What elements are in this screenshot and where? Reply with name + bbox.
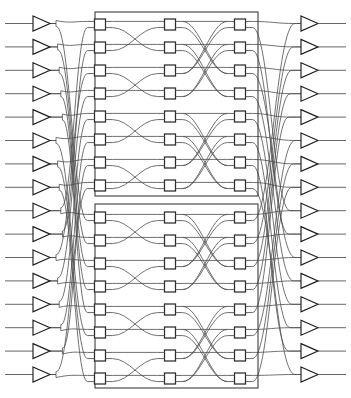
output-buffer-13[interactable]	[301, 320, 318, 335]
output-buffer-0[interactable]	[301, 16, 318, 31]
output-wire-5-0	[253, 136, 302, 140]
input-buffer-0[interactable]	[33, 16, 50, 31]
output-buffer-4[interactable]	[301, 110, 318, 125]
switch-element-p0-r3-s2[interactable]	[235, 88, 246, 99]
input-buffer-7[interactable]	[33, 180, 50, 195]
input-buffer-layer	[5, 16, 50, 382]
switch-element-p0-r5-s0[interactable]	[95, 134, 106, 145]
switch-element-p1-r3-s1[interactable]	[165, 281, 176, 292]
switch-element-p1-r1-s1[interactable]	[165, 235, 176, 246]
switch-element-p1-r7-s0[interactable]	[95, 373, 106, 384]
switch-element-p0-r3-s0[interactable]	[95, 88, 106, 99]
output-buffer-3[interactable]	[301, 86, 318, 101]
network-diagram	[0, 0, 351, 398]
input-buffer-9[interactable]	[33, 227, 50, 242]
switch-element-p1-r1-s0[interactable]	[95, 235, 106, 246]
switch-box-layer	[88, 19, 253, 384]
switch-element-p0-r4-s0[interactable]	[95, 111, 106, 122]
output-buffer-15[interactable]	[301, 367, 318, 382]
switch-element-p1-r5-s0[interactable]	[95, 327, 106, 338]
input-buffer-6[interactable]	[33, 156, 50, 171]
output-buffer-9[interactable]	[301, 227, 318, 242]
input-buffer-3[interactable]	[33, 86, 50, 101]
switch-element-p0-r1-s0[interactable]	[95, 42, 106, 53]
input-buffer-8[interactable]	[33, 203, 50, 218]
input-buffer-14[interactable]	[33, 344, 50, 359]
interstage-wire-p1-s0-r1-t1	[113, 221, 158, 244]
switch-element-p1-r5-s2[interactable]	[235, 327, 246, 338]
output-wire-0-0	[253, 21, 302, 23]
interstage-wire-p0-s1-r2-t1	[183, 28, 228, 74]
switch-element-p0-r3-s1[interactable]	[165, 88, 176, 99]
interstage-wire-p1-s0-r5-t1	[113, 313, 158, 336]
switch-element-p0-r6-s0[interactable]	[95, 157, 106, 168]
output-wire-10-0	[253, 258, 302, 261]
switch-element-p0-r0-s1[interactable]	[165, 19, 176, 30]
output-buffer-10[interactable]	[301, 250, 318, 265]
switch-element-p0-r5-s2[interactable]	[235, 134, 246, 145]
output-wire-layer	[253, 21, 302, 381]
input-wire-11-0	[50, 281, 88, 284]
output-buffer-14[interactable]	[301, 344, 318, 359]
output-wire-8-1	[253, 28, 302, 211]
switch-element-p1-r2-s1[interactable]	[165, 258, 176, 269]
switch-element-p0-r0-s0[interactable]	[95, 19, 106, 30]
switch-element-p0-r1-s1[interactable]	[165, 42, 176, 53]
switch-element-p1-r3-s0[interactable]	[95, 281, 106, 292]
input-buffer-4[interactable]	[33, 110, 50, 125]
switch-element-p1-r5-s1[interactable]	[165, 327, 176, 338]
output-buffer-layer	[301, 16, 346, 382]
output-buffer-1[interactable]	[301, 39, 318, 54]
output-buffer-5[interactable]	[301, 133, 318, 148]
switch-element-p0-r6-s1[interactable]	[165, 157, 176, 168]
output-buffer-2[interactable]	[301, 63, 318, 78]
switch-element-p0-r2-s1[interactable]	[165, 65, 176, 76]
interstage-wire-p0-s0-r7-t1	[113, 166, 158, 189]
input-buffer-15[interactable]	[33, 367, 50, 382]
plane-frame-bottom-plane	[95, 204, 258, 388]
switch-element-p0-r2-s0[interactable]	[95, 65, 106, 76]
switch-element-p1-r1-s2[interactable]	[235, 235, 246, 246]
switch-element-p0-r2-s2[interactable]	[235, 65, 246, 76]
input-buffer-12[interactable]	[33, 297, 50, 312]
input-buffer-10[interactable]	[33, 250, 50, 265]
input-buffer-2[interactable]	[33, 63, 50, 78]
switch-element-p1-r0-s0[interactable]	[95, 212, 106, 223]
switch-element-p0-r6-s2[interactable]	[235, 157, 246, 168]
output-buffer-11[interactable]	[301, 273, 318, 288]
input-buffer-13[interactable]	[33, 320, 50, 335]
switch-element-p1-r6-s2[interactable]	[235, 350, 246, 361]
output-buffer-7[interactable]	[301, 180, 318, 195]
switch-element-p0-r7-s2[interactable]	[235, 180, 246, 191]
output-buffer-8[interactable]	[301, 203, 318, 218]
output-buffer-6[interactable]	[301, 156, 318, 171]
output-wire-15-0	[253, 375, 302, 376]
switch-element-p0-r1-s2[interactable]	[235, 42, 246, 53]
switch-element-p1-r6-s0[interactable]	[95, 350, 106, 361]
switch-element-p0-r4-s1[interactable]	[165, 111, 176, 122]
input-buffer-1[interactable]	[33, 39, 50, 54]
switch-element-p0-r5-s1[interactable]	[165, 134, 176, 145]
switch-element-p1-r0-s2[interactable]	[235, 212, 246, 223]
switch-element-p0-r0-s2[interactable]	[235, 19, 246, 30]
switch-element-p0-r7-s0[interactable]	[95, 180, 106, 191]
switch-element-p1-r2-s2[interactable]	[235, 258, 246, 269]
input-buffer-11[interactable]	[33, 273, 50, 288]
input-buffer-5[interactable]	[33, 133, 50, 148]
switch-element-p1-r4-s2[interactable]	[235, 304, 246, 315]
switch-element-p0-r7-s1[interactable]	[165, 180, 176, 191]
switch-element-p1-r0-s1[interactable]	[165, 212, 176, 223]
interstage-wire-p0-s0-r3-t1	[113, 74, 158, 97]
switch-element-p1-r6-s1[interactable]	[165, 350, 176, 361]
input-wire-0-1	[50, 24, 88, 221]
switch-element-p1-r7-s2[interactable]	[235, 373, 246, 384]
output-wire-2-0	[253, 67, 302, 70]
switch-element-p1-r4-s1[interactable]	[165, 304, 176, 315]
output-buffer-12[interactable]	[301, 297, 318, 312]
switch-element-p1-r2-s0[interactable]	[95, 258, 106, 269]
switch-element-p1-r3-s2[interactable]	[235, 281, 246, 292]
switch-element-p1-r4-s0[interactable]	[95, 304, 106, 315]
switch-element-p0-r4-s2[interactable]	[235, 111, 246, 122]
output-wire-9-0	[253, 234, 302, 237]
switch-element-p1-r7-s1[interactable]	[165, 373, 176, 384]
